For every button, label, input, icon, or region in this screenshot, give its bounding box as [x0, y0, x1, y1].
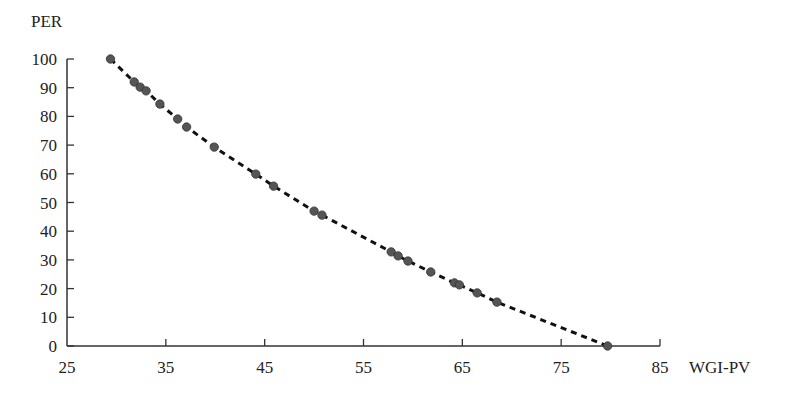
data-point [156, 100, 164, 108]
x-tick-label: 25 [59, 358, 76, 377]
data-points [106, 55, 612, 350]
x-tick-label: 65 [454, 358, 471, 377]
y-tick-label: 70 [40, 136, 57, 155]
y-tick-label: 0 [49, 337, 58, 356]
x-axis-label: WGI-PV [689, 358, 751, 377]
data-point [318, 211, 326, 219]
data-point [473, 289, 481, 297]
y-tick-label: 50 [40, 194, 57, 213]
x-tick-label: 55 [355, 358, 372, 377]
x-tick-label: 35 [157, 358, 174, 377]
y-axis-label: PER [31, 12, 63, 31]
scatter-chart: 010203040506070809010025354555657585 PER… [0, 0, 790, 405]
data-point [394, 252, 402, 260]
x-tick-label: 85 [652, 358, 669, 377]
y-tick-label: 90 [40, 79, 57, 98]
y-tick-label: 80 [40, 107, 57, 126]
data-point [210, 143, 218, 151]
data-point [173, 115, 181, 123]
data-point [252, 170, 260, 178]
y-tick-label: 20 [40, 280, 57, 299]
data-point [106, 55, 114, 63]
y-tick-label: 10 [40, 308, 57, 327]
data-point [493, 298, 501, 306]
axes: 010203040506070809010025354555657585 [32, 50, 669, 377]
data-point [310, 207, 318, 215]
x-tick-label: 45 [256, 358, 273, 377]
trendline [111, 59, 608, 346]
y-tick-label: 100 [32, 50, 58, 69]
data-point [404, 257, 412, 265]
data-point [182, 123, 190, 131]
data-point [427, 268, 435, 276]
y-tick-label: 30 [40, 251, 57, 270]
y-tick-label: 60 [40, 165, 57, 184]
data-point [142, 87, 150, 95]
x-tick-label: 75 [553, 358, 570, 377]
data-point [455, 281, 463, 289]
y-tick-label: 40 [40, 222, 57, 241]
data-point [603, 342, 611, 350]
data-point [269, 182, 277, 190]
